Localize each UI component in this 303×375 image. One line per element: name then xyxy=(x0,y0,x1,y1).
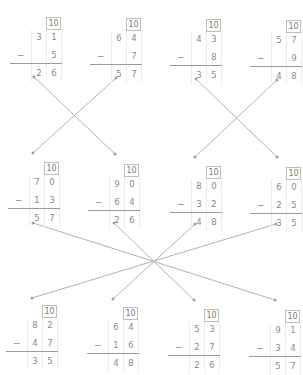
subtrahend-ones: 4 xyxy=(125,196,139,208)
borrow-ten-box: 10 xyxy=(286,167,301,180)
minus-sign: − xyxy=(95,196,103,208)
difference-tens: 4 xyxy=(109,357,123,369)
difference-tens: 4 xyxy=(192,216,206,228)
sum-line xyxy=(6,351,58,352)
subtrahend-tens: 2 xyxy=(272,199,286,211)
subtraction-problem: 10 6 0 − 2 5 3 5 xyxy=(250,167,302,231)
difference-tens: 5 xyxy=(112,68,126,80)
minuend-ones: 4 xyxy=(127,32,141,44)
difference-ones: 7 xyxy=(45,212,59,224)
subtrahend-tens: 3 xyxy=(271,342,285,354)
minuend-ones: 0 xyxy=(125,178,139,190)
minuend-ones: 0 xyxy=(207,180,221,192)
sum-line xyxy=(90,64,142,65)
minuend-ones: 4 xyxy=(124,321,138,333)
subtraction-problem: 10 5 7 − 9 4 8 xyxy=(250,20,302,84)
sum-line xyxy=(170,65,222,66)
subtrahend-ones: 5 xyxy=(287,199,301,211)
subtrahend-tens: 6 xyxy=(110,196,124,208)
borrow-ten-box: 10 xyxy=(285,310,300,323)
borrow-ten-box: 10 xyxy=(44,162,59,175)
sum-line xyxy=(87,353,139,354)
difference-tens: 3 xyxy=(192,69,206,81)
borrow-ten-box: 10 xyxy=(123,307,138,320)
minus-sign: − xyxy=(257,52,265,64)
borrow-ten-box: 10 xyxy=(126,18,141,31)
minuend-tens: 9 xyxy=(271,324,285,336)
minuend-tens: 5 xyxy=(190,323,204,335)
subtrahend-tens: 1 xyxy=(109,339,123,351)
minuend-tens: 3 xyxy=(32,31,46,43)
difference-ones: 8 xyxy=(207,216,221,228)
minuend-ones: 3 xyxy=(207,33,221,45)
difference-ones: 5 xyxy=(43,355,57,367)
minuend-ones: 0 xyxy=(287,181,301,193)
subtraction-problem: 10 8 2 − 4 7 3 5 xyxy=(6,305,58,369)
minuend-ones: 1 xyxy=(286,324,300,336)
match-line xyxy=(33,78,116,153)
minuend-tens: 6 xyxy=(109,321,123,333)
minuend-ones: 1 xyxy=(47,31,61,43)
borrow-ten-box: 10 xyxy=(206,166,221,179)
borrow-ten-box: 10 xyxy=(204,309,219,322)
subtrahend-ones: 4 xyxy=(286,342,300,354)
subtraction-problem: 10 6 4 − 7 5 7 xyxy=(90,18,142,82)
minuend-tens: 5 xyxy=(272,34,286,46)
minus-sign: − xyxy=(17,49,25,61)
subtraction-problem: 10 4 3 − 8 3 5 xyxy=(170,19,222,83)
minuend-ones: 2 xyxy=(43,319,57,331)
difference-tens: 4 xyxy=(272,70,286,82)
difference-tens: 5 xyxy=(271,360,285,372)
borrow-ten-box: 10 xyxy=(46,17,61,30)
difference-tens: 3 xyxy=(272,217,286,229)
subtrahend-ones: 8 xyxy=(207,51,221,63)
match-line xyxy=(32,224,276,298)
subtraction-problem: 10 8 0 − 3 2 4 8 xyxy=(170,166,222,230)
minuend-tens: 9 xyxy=(110,178,124,190)
difference-ones: 5 xyxy=(207,69,221,81)
difference-tens: 2 xyxy=(190,359,204,371)
minuend-tens: 6 xyxy=(272,181,286,193)
minus-sign: − xyxy=(15,194,23,206)
subtrahend-ones: 3 xyxy=(45,194,59,206)
difference-ones: 6 xyxy=(205,359,219,371)
sum-line xyxy=(170,212,222,213)
difference-ones: 8 xyxy=(287,70,301,82)
difference-ones: 7 xyxy=(286,360,300,372)
minus-sign: − xyxy=(177,198,185,210)
sum-line xyxy=(250,66,302,67)
minuend-tens: 8 xyxy=(192,180,206,192)
borrow-ten-box: 10 xyxy=(206,19,221,32)
subtraction-problem: 10 7 0 − 1 3 5 7 xyxy=(8,162,60,226)
difference-tens: 2 xyxy=(32,67,46,79)
sum-line xyxy=(250,213,302,214)
subtraction-problem: 10 9 1 − 3 4 5 7 xyxy=(249,310,301,374)
minus-sign: − xyxy=(256,342,264,354)
sum-line xyxy=(168,355,220,356)
subtrahend-tens: 3 xyxy=(192,198,206,210)
sum-line xyxy=(8,208,60,209)
subtrahend-ones: 9 xyxy=(287,52,301,64)
subtrahend-tens: 1 xyxy=(30,194,44,206)
minus-sign: − xyxy=(175,341,183,353)
subtrahend-ones: 7 xyxy=(205,341,219,353)
borrow-ten-box: 10 xyxy=(42,305,57,318)
subtrahend-ones: 5 xyxy=(47,49,61,61)
minus-sign: − xyxy=(94,339,102,351)
subtrahend-ones: 7 xyxy=(127,50,141,62)
minuend-tens: 8 xyxy=(28,319,42,331)
minus-sign: − xyxy=(177,51,185,63)
minus-sign: − xyxy=(97,50,105,62)
borrow-ten-box: 10 xyxy=(286,20,301,33)
minus-sign: − xyxy=(257,199,265,211)
sum-line xyxy=(10,63,62,64)
difference-tens: 5 xyxy=(30,212,44,224)
subtrahend-ones: 2 xyxy=(207,198,221,210)
subtrahend-tens: 2 xyxy=(190,341,204,353)
minus-sign: − xyxy=(13,337,21,349)
minuend-ones: 3 xyxy=(205,323,219,335)
sum-line xyxy=(249,356,301,357)
minuend-ones: 0 xyxy=(45,176,59,188)
subtraction-problem: 10 6 4 − 1 6 4 8 xyxy=(87,307,139,371)
difference-tens: 2 xyxy=(110,214,124,226)
